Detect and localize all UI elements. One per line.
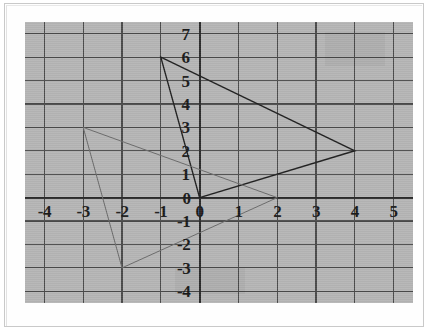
y-tick-label: 5: [182, 72, 190, 89]
x-tick-label: -1: [154, 203, 167, 220]
y-tick-label: 2: [182, 142, 190, 159]
scanned-page: -4-3-2-1012345 76543210-1-2-3-4: [0, 0, 428, 331]
y-tick-label: -2: [177, 236, 190, 253]
x-tick-label: -4: [38, 203, 51, 220]
y-tick-label: 4: [182, 95, 190, 112]
x-tick-label: 5: [390, 203, 398, 220]
y-tick-label: -1: [177, 213, 190, 230]
x-tick-label: 2: [273, 203, 281, 220]
y-tick-label: 1: [182, 166, 190, 183]
y-tick-label: 3: [182, 119, 190, 136]
y-tick-label: 6: [182, 49, 190, 66]
x-tick-label: 1: [234, 203, 242, 220]
x-tick-label: 0: [196, 203, 204, 220]
coordinate-graph-figure: -4-3-2-1012345 76543210-1-2-3-4: [25, 22, 413, 303]
y-tick-label: -3: [177, 259, 190, 276]
y-tick-label: 7: [182, 25, 190, 42]
x-tick-label: -2: [115, 203, 128, 220]
graph-canvas: [25, 22, 413, 303]
x-tick-label: 4: [351, 203, 359, 220]
x-tick-label: -3: [77, 203, 90, 220]
x-tick-label: 3: [312, 203, 320, 220]
y-tick-label: 0: [183, 189, 191, 206]
y-tick-label: -4: [177, 283, 190, 300]
